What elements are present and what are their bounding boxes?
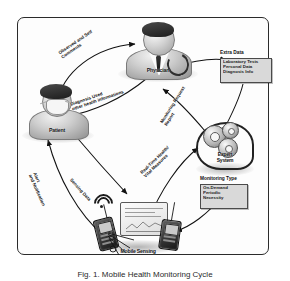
tablet-line (125, 212, 155, 213)
physician-hair (142, 22, 174, 37)
tablet-waveform (126, 220, 162, 231)
gear-icon-small (222, 122, 239, 139)
gear-hole (228, 128, 235, 135)
handset-keypad (163, 239, 175, 243)
extra-data-item: Diagnosis Info (223, 70, 269, 75)
monitoring-type-panel: On-Demand Periodic Necessity (200, 184, 248, 209)
figure-caption: Fig. 1. Mobile Health Monitoring Cycle (0, 270, 290, 281)
node-physician: Physician (112, 20, 204, 82)
physician-label: Physician (112, 67, 204, 73)
tablet-line (125, 216, 161, 217)
extra-data-panel: Laboratory Tests Personal Data Diagnosis… (220, 58, 272, 83)
mobile-sensing-label: Mobile Sensing (88, 248, 188, 254)
handset-right (158, 219, 182, 251)
expert-system-label-line2: System (192, 157, 258, 163)
patient-hair (40, 84, 72, 99)
box-monitoring-type: Monitoring Type On-Demand Periodic Neces… (198, 176, 258, 212)
patient-label: Patient (16, 127, 98, 133)
handset-screen (164, 223, 179, 236)
box-extra-data: Extra Data Laboratory Tests Personal Dat… (216, 50, 272, 86)
figure-root: Physician Patient Expert System Extra Da… (0, 0, 290, 281)
monitoring-type-item: Necessity (203, 196, 245, 201)
extra-data-title: Extra Data (220, 50, 244, 55)
node-patient: Patient (16, 82, 98, 144)
antenna-right (171, 202, 175, 220)
handset-keypad (164, 235, 176, 239)
tablet-line (125, 208, 163, 209)
extra-data-list: Laboratory Tests Personal Data Diagnosis… (223, 60, 269, 75)
monitoring-type-list: On-Demand Periodic Necessity (203, 186, 245, 201)
gear-hole (210, 132, 220, 142)
monitoring-type-title: Monitoring Type (200, 176, 237, 181)
node-mobile-sensing: Mobile Sensing (88, 188, 188, 258)
node-expert-system: Expert System (192, 118, 258, 178)
